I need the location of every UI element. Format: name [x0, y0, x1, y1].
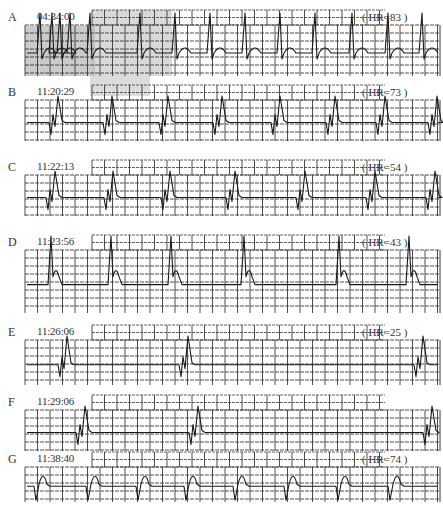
- strip-label-e: E: [8, 325, 15, 340]
- strip-label-g: G: [8, 452, 17, 467]
- heart-rate-label: ( HR=54 ): [362, 161, 407, 173]
- strip-timestamp: 11:20:29: [37, 85, 74, 97]
- heart-rate-label: ( HR=73 ): [362, 86, 407, 98]
- strip-label-d: D: [8, 235, 17, 250]
- strip-timestamp: 11:23:56: [37, 235, 74, 247]
- ecg-strip-f: [25, 395, 440, 451]
- heart-rate-label: ( HR=43 ): [362, 236, 407, 248]
- strip-label-f: F: [8, 395, 15, 410]
- strip-timestamp: 04:34:00: [37, 10, 75, 22]
- strip-timestamp: 11:26:06: [37, 325, 74, 337]
- strip-timestamp: 11:38:40: [37, 452, 74, 464]
- heart-rate-label: ( HR=83 ): [362, 11, 407, 23]
- strip-timestamp: 11:22:13: [37, 160, 74, 172]
- strip-label-b: B: [8, 85, 16, 100]
- strip-label-a: A: [8, 10, 17, 25]
- heart-rate-label: ( HR=25 ): [362, 326, 407, 338]
- ecg-figure: [0, 0, 443, 523]
- strip-label-c: C: [8, 160, 16, 175]
- strip-timestamp: 11:29:06: [37, 395, 74, 407]
- heart-rate-label: ( HR=74 ): [362, 453, 407, 465]
